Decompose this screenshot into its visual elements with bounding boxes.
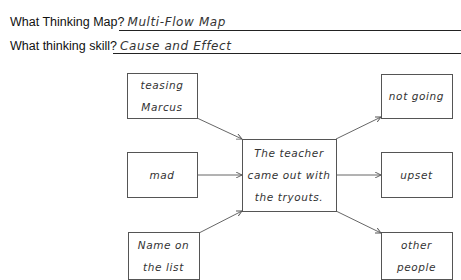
cause-box-text-line: Name on bbox=[138, 239, 190, 251]
effect-box-text-line: upset bbox=[400, 169, 433, 181]
effect-box-text-line: not going bbox=[389, 90, 444, 102]
effect-box: not going bbox=[382, 75, 453, 119]
effect-box: otherpeople bbox=[382, 233, 453, 280]
event-box-text-line: The teacher bbox=[254, 147, 324, 159]
multi-flow-map: teasingMarcusmadName onthe listThe teach… bbox=[0, 0, 461, 280]
event-box: The teachercame out withthe tryouts. bbox=[243, 140, 337, 212]
cause-box: mad bbox=[128, 153, 198, 198]
cause-box-text-line: mad bbox=[149, 169, 174, 181]
effect-arrow-1 bbox=[336, 117, 381, 139]
cause-box-text-line: teasing bbox=[141, 79, 184, 91]
boxes: teasingMarcusmadName onthe listThe teach… bbox=[128, 74, 453, 280]
event-box-text-line: the tryouts. bbox=[255, 191, 323, 203]
cause-box-text-line: the list bbox=[143, 261, 184, 273]
effect-box-text-line: other bbox=[401, 239, 432, 251]
cause-arrow-1 bbox=[197, 118, 242, 139]
cause-arrow-3 bbox=[199, 211, 242, 233]
cause-box-text-line: Marcus bbox=[141, 101, 182, 113]
effect-box-text-line: people bbox=[396, 261, 436, 273]
effect-box: upset bbox=[382, 153, 453, 198]
cause-box: teasingMarcus bbox=[128, 74, 198, 119]
effect-arrow-3 bbox=[336, 211, 381, 233]
event-box-text-line: came out with bbox=[248, 169, 331, 181]
cause-box: Name onthe list bbox=[129, 233, 200, 280]
